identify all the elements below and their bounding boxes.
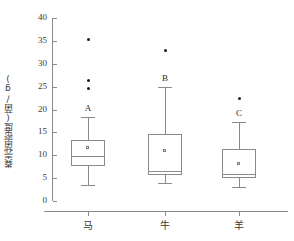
whisker-upper — [165, 87, 166, 135]
y-tick-mark — [53, 64, 57, 65]
y-tick-label: 0 — [25, 195, 47, 205]
x-axis-category-label: 牛 — [145, 217, 185, 232]
whisker-lower — [239, 178, 240, 187]
y-tick-mark — [53, 41, 57, 42]
x-tick-mark — [239, 212, 240, 216]
y-tick-mark — [53, 201, 57, 202]
y-tick-mark — [53, 132, 57, 133]
whisker-upper — [88, 117, 89, 140]
y-tick-mark — [53, 155, 57, 156]
mean-marker — [237, 162, 240, 165]
x-tick-mark — [88, 212, 89, 216]
whisker-upper — [239, 122, 240, 149]
y-tick-mark — [53, 110, 57, 111]
whisker-cap-lower — [81, 185, 95, 186]
whisker-lower — [88, 166, 89, 185]
y-tick-label: 15 — [25, 126, 47, 136]
median-line — [222, 174, 256, 175]
boxplot-figure: 粪壳菌密度(菌/g) 0510152025303540马A牛B羊C — [0, 0, 294, 241]
significance-letter: A — [78, 103, 98, 113]
whisker-cap-upper — [232, 122, 246, 123]
x-axis-line — [44, 211, 288, 212]
outlier-point — [87, 87, 90, 90]
y-tick-label: 35 — [25, 35, 47, 45]
y-tick-label: 10 — [25, 149, 47, 159]
plot-area: 0510152025303540马A牛B羊C — [0, 0, 294, 241]
mean-marker — [163, 149, 166, 152]
y-tick-mark — [53, 178, 57, 179]
y-tick-label: 40 — [25, 12, 47, 22]
whisker-cap-lower — [158, 183, 172, 184]
significance-letter: B — [155, 73, 175, 83]
x-axis-category-label: 马 — [68, 217, 108, 232]
x-axis-category-label: 羊 — [219, 217, 259, 232]
whisker-cap-upper — [158, 87, 172, 88]
box-iqr — [71, 140, 105, 167]
y-tick-mark — [53, 87, 57, 88]
outlier-point — [87, 38, 90, 41]
median-line — [148, 171, 182, 172]
mean-marker — [86, 146, 89, 149]
median-line — [71, 156, 105, 157]
x-tick-mark — [165, 212, 166, 216]
whisker-lower — [165, 175, 166, 183]
box-iqr — [148, 134, 182, 175]
y-tick-label: 30 — [25, 58, 47, 68]
outlier-point — [164, 49, 167, 52]
whisker-cap-upper — [81, 117, 95, 118]
y-tick-mark — [53, 18, 57, 19]
outlier-point — [87, 79, 90, 82]
outlier-point — [238, 97, 241, 100]
y-tick-label: 25 — [25, 81, 47, 91]
y-tick-label: 5 — [25, 172, 47, 182]
whisker-cap-lower — [232, 187, 246, 188]
significance-letter: C — [229, 108, 249, 118]
y-tick-label: 20 — [25, 104, 47, 114]
